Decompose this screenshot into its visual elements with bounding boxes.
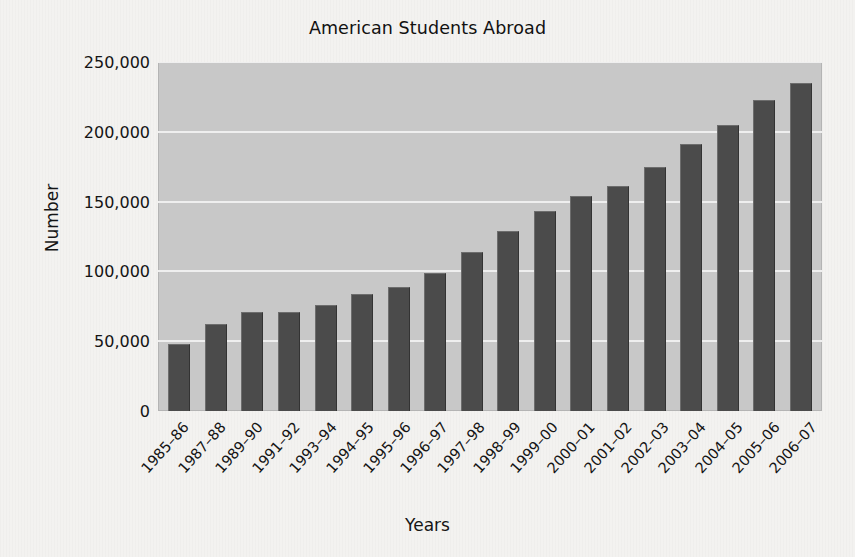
y-tick-label: 100,000 (10, 262, 150, 281)
bar-slot (746, 62, 783, 411)
bar-slot (490, 62, 527, 411)
y-tick-label: 250,000 (10, 53, 150, 72)
bar-slot (380, 62, 417, 411)
bar-slot (161, 62, 198, 411)
chart-page: American Students Abroad Number 050,0001… (0, 0, 855, 557)
bar[interactable] (570, 196, 592, 411)
bar-slot (344, 62, 381, 411)
bar-slot (198, 62, 235, 411)
x-axis-tick-labels: 1985–861987–881989–901991–921993–941994–… (158, 411, 822, 511)
y-tick-label: 0 (10, 402, 150, 421)
y-tick-label: 50,000 (10, 332, 150, 351)
bar[interactable] (205, 324, 227, 411)
bar[interactable] (351, 294, 373, 411)
bar-slot (454, 62, 491, 411)
bar[interactable] (680, 144, 702, 411)
bar[interactable] (790, 83, 812, 411)
bar[interactable] (424, 273, 446, 411)
bar[interactable] (241, 312, 263, 411)
bar[interactable] (534, 211, 556, 411)
bar-slot (600, 62, 637, 411)
y-axis-tick-labels: 050,000100,000150,000200,000250,000 (8, 0, 150, 557)
bar-slot (563, 62, 600, 411)
plot-area (158, 62, 822, 411)
y-tick-label: 150,000 (10, 192, 150, 211)
bar[interactable] (753, 100, 775, 411)
bar[interactable] (278, 312, 300, 411)
bar-series (158, 62, 822, 411)
bar[interactable] (315, 305, 337, 411)
bar[interactable] (717, 125, 739, 411)
bar[interactable] (644, 167, 666, 411)
bar-slot (271, 62, 308, 411)
bar-slot (636, 62, 673, 411)
bar-slot (709, 62, 746, 411)
plot-inner (158, 62, 822, 411)
bar[interactable] (388, 287, 410, 411)
bar-slot (783, 62, 820, 411)
bar[interactable] (497, 231, 519, 411)
bar-slot (307, 62, 344, 411)
bar-slot (673, 62, 710, 411)
bar-slot (527, 62, 564, 411)
x-axis-label: Years (0, 515, 855, 535)
bar[interactable] (168, 344, 190, 411)
bar-slot (417, 62, 454, 411)
bar[interactable] (607, 186, 629, 411)
bar[interactable] (461, 252, 483, 411)
y-tick-label: 200,000 (10, 122, 150, 141)
bar-slot (234, 62, 271, 411)
